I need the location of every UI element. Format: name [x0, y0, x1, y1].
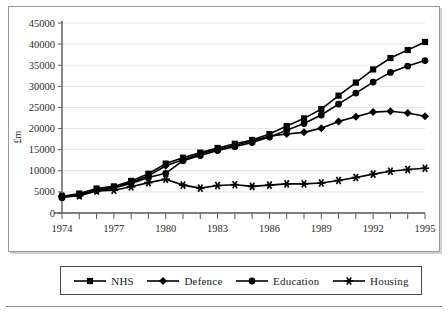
marker-square — [370, 66, 376, 72]
marker-diamond — [369, 108, 377, 116]
marker-diamond — [159, 277, 167, 285]
y-tick-label: 5000 — [34, 186, 55, 197]
marker-circle — [162, 170, 169, 177]
y-axis-title: £m — [12, 130, 23, 143]
marker-circle — [180, 157, 187, 164]
marker-diamond — [317, 124, 325, 132]
x-tick-label: 1995 — [415, 223, 436, 234]
y-tick-label: 45000 — [29, 18, 55, 29]
legend-marker-square-icon — [73, 274, 107, 288]
marker-circle — [422, 57, 429, 64]
x-tick-label: 1992 — [363, 223, 384, 234]
marker-diamond — [300, 128, 308, 136]
x-tick-label: 1989 — [311, 223, 332, 234]
chart-legend: NHSDefenceEducationHousing — [60, 266, 422, 295]
x-tick-label: 1986 — [259, 223, 280, 234]
legend-label: Education — [273, 275, 319, 287]
y-tick-label: 0 — [50, 208, 55, 219]
marker-diamond — [404, 109, 412, 117]
marker-circle — [197, 152, 204, 159]
y-tick-label: 10000 — [29, 165, 55, 176]
x-tick-label: 1974 — [52, 223, 74, 234]
y-tick-label: 35000 — [29, 60, 55, 71]
marker-diamond — [421, 112, 429, 120]
y-tick-label: 15000 — [29, 144, 55, 155]
marker-square — [318, 106, 324, 112]
marker-circle — [335, 101, 342, 108]
legend-item-housing[interactable]: Housing — [332, 274, 409, 288]
marker-square — [405, 47, 411, 53]
marker-square — [335, 93, 341, 99]
marker-circle — [301, 120, 308, 127]
legend-item-education[interactable]: Education — [235, 274, 319, 288]
marker-diamond — [386, 107, 394, 115]
marker-diamond — [335, 117, 343, 125]
legend-marker-star-icon — [332, 274, 366, 288]
y-tick-label: 40000 — [29, 39, 55, 50]
legend-label: NHS — [111, 275, 134, 287]
x-tick-label: 1983 — [207, 223, 228, 234]
marker-circle — [231, 143, 238, 150]
marker-circle — [318, 112, 325, 119]
marker-circle — [370, 79, 377, 86]
chart-figure: 0500010000150002000025000300003500040000… — [0, 0, 448, 316]
chart-frame: 0500010000150002000025000300003500040000… — [8, 6, 440, 252]
marker-circle — [404, 63, 411, 70]
legend-label: Defence — [184, 275, 222, 287]
x-tick-label: 1980 — [155, 223, 176, 234]
legend-label: Housing — [370, 275, 409, 287]
marker-circle — [266, 134, 273, 141]
legend-item-nhs[interactable]: NHS — [73, 274, 134, 288]
legend-marker-diamond-icon — [146, 274, 180, 288]
marker-circle — [249, 277, 256, 284]
y-tick-label: 30000 — [29, 81, 55, 92]
marker-square — [387, 55, 393, 61]
x-tick-label: 1977 — [103, 223, 124, 234]
footer-divider — [6, 306, 442, 307]
y-tick-label: 25000 — [29, 102, 55, 113]
marker-square — [353, 79, 359, 85]
legend-item-defence[interactable]: Defence — [146, 274, 222, 288]
marker-square — [422, 39, 428, 45]
series-housing — [58, 165, 429, 200]
legend-marker-circle-icon — [235, 274, 269, 288]
line-chart-plot: 0500010000150002000025000300003500040000… — [9, 7, 439, 251]
marker-circle — [249, 139, 256, 146]
marker-square — [87, 277, 93, 283]
marker-diamond — [352, 113, 360, 121]
series-education — [59, 57, 429, 201]
marker-circle — [352, 90, 359, 97]
marker-circle — [283, 127, 290, 134]
y-tick-label: 20000 — [29, 123, 55, 134]
marker-circle — [387, 69, 394, 76]
legend-row: NHSDefenceEducationHousing — [61, 267, 421, 294]
marker-circle — [214, 147, 221, 154]
